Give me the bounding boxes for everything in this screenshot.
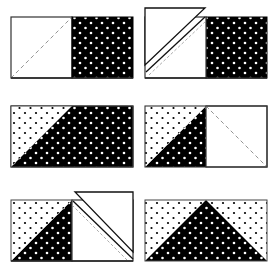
dark-dotted-rectangle bbox=[206, 17, 267, 78]
step-2-panel bbox=[145, 8, 267, 78]
step-3-panel bbox=[11, 106, 133, 167]
step-5-panel bbox=[11, 192, 133, 261]
step-1-panel bbox=[11, 17, 133, 78]
flying-geese-diagram bbox=[0, 0, 276, 267]
step-4-panel bbox=[145, 106, 267, 167]
step-6-panel bbox=[145, 200, 267, 261]
dark-dotted-rectangle bbox=[72, 17, 133, 78]
